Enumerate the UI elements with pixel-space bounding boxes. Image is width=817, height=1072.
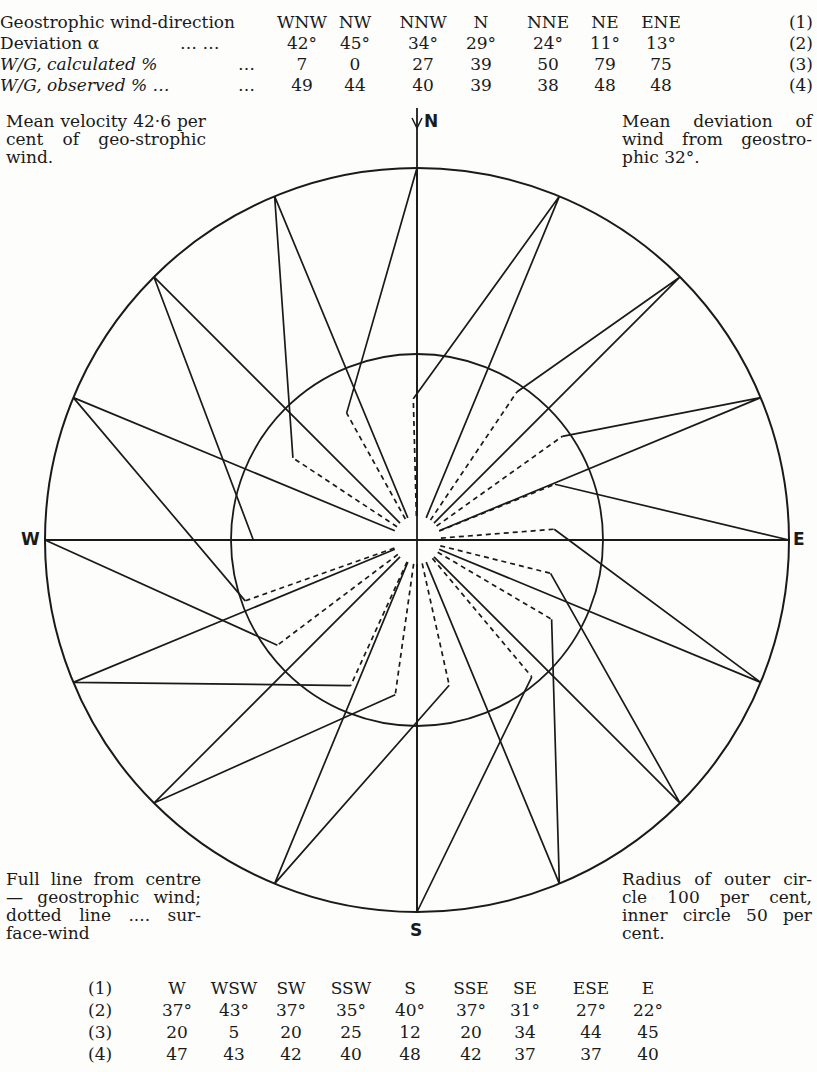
compass-label-n: N: [424, 111, 438, 131]
cell: 45: [618, 1022, 678, 1042]
cell: 20: [261, 1022, 321, 1042]
cell: 37: [495, 1044, 555, 1064]
cell: 42: [441, 1044, 501, 1064]
compass-label-e: E: [793, 529, 805, 549]
cell: 40: [618, 1044, 678, 1064]
cell: 40: [321, 1044, 381, 1064]
cell: S: [380, 978, 440, 998]
cell: 12: [380, 1022, 440, 1042]
row-index: (2): [88, 1000, 112, 1020]
cell: SW: [261, 978, 321, 998]
cell: SE: [495, 978, 555, 998]
cell: 31°: [495, 1000, 555, 1020]
cell: 25: [321, 1022, 381, 1042]
surface-wind-ray-ene: [437, 436, 563, 526]
cell: 40°: [380, 1000, 440, 1020]
geostrophic-ray-w: [45, 540, 393, 645]
surface-wind-ray-ne: [430, 392, 516, 520]
surface-wind-ray-se: [440, 546, 550, 573]
cell: 34: [495, 1022, 555, 1042]
cell: E: [618, 978, 678, 998]
cell: 20: [147, 1022, 207, 1042]
table-row-observed: (4) 47 43 42 40 48 42 37 37 40: [0, 1044, 817, 1066]
cell: 44: [561, 1022, 621, 1042]
cell: 22°: [618, 1000, 678, 1020]
surface-wind-ray-nne: [413, 399, 416, 516]
geostrophic-ray-n: [347, 168, 417, 516]
note-radius: Radius of outer cir-cle 100 per cent, in…: [622, 870, 812, 942]
surface-wind-ray-wnw: [245, 548, 394, 601]
cell: 5: [204, 1022, 264, 1042]
table-row-directions: (1) W WSW SW SSW S SSE SE ESE E: [0, 978, 817, 1000]
cell: 43: [204, 1044, 264, 1064]
cell: 48: [380, 1044, 440, 1064]
note-mean-velocity: Mean velocity 42·6 per cent of geo-strop…: [6, 112, 206, 166]
note-mean-deviation: Mean deviation of wind from geostro-phic…: [622, 112, 812, 166]
geostrophic-ray-sw: [154, 557, 400, 803]
cell: SSE: [441, 978, 501, 998]
table-row-deviation: (2) 37° 43° 37° 35° 40° 37° 31° 27° 22°: [0, 1000, 817, 1022]
cell: 35°: [321, 1000, 381, 1020]
cell: 27°: [561, 1000, 621, 1020]
cell: 20: [441, 1022, 501, 1042]
row-index: (1): [88, 978, 112, 998]
surface-wind-ray-n: [347, 413, 406, 519]
cell: 37°: [147, 1000, 207, 1020]
table-row-calculated: (3) 20 5 20 25 12 20 34 44 45: [0, 1022, 817, 1044]
surface-wind-ray-sse: [438, 552, 552, 619]
cell: 43°: [204, 1000, 264, 1020]
geostrophic-ray-e: [441, 484, 789, 540]
cell: 42: [261, 1044, 321, 1064]
compass-label-w: W: [21, 529, 40, 549]
row-index: (4): [88, 1044, 112, 1064]
cell: 37°: [441, 1000, 501, 1020]
cell: ESE: [561, 978, 621, 998]
cell: W: [147, 978, 207, 998]
geostrophic-ray-ne: [434, 277, 680, 523]
cell: 37°: [261, 1000, 321, 1020]
note-legend-lines: Full line from centre — geostrophic wind…: [6, 870, 201, 942]
cell: 47: [147, 1044, 207, 1064]
surface-wind-ray-s: [432, 558, 531, 676]
surface-wind-ray-ese: [441, 529, 554, 538]
compass-label-s: S: [410, 920, 422, 940]
cell: SSW: [321, 978, 381, 998]
cell: 37: [561, 1044, 621, 1064]
cell: WSW: [204, 978, 264, 998]
geostrophic-ray-se: [434, 557, 680, 803]
surface-wind-ray-ssw: [422, 563, 449, 685]
geostrophic-ray-ssw: [275, 562, 450, 884]
surface-wind-ray-wsw: [351, 562, 407, 686]
surface-wind-ray-sw: [395, 564, 413, 695]
row-index: (3): [88, 1022, 112, 1042]
